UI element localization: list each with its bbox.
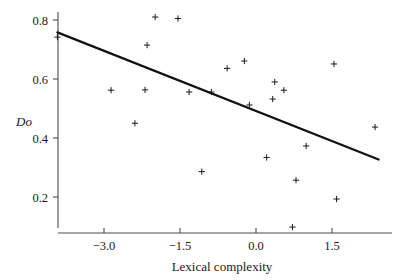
data-point-marker bbox=[333, 196, 339, 202]
x-axis-tick-labels: −3.0 −1.5 0.0 1.5 bbox=[93, 239, 340, 253]
x-tick-label--3.0: −3.0 bbox=[93, 239, 116, 253]
y-axis-title: Do bbox=[15, 114, 32, 129]
data-point-marker bbox=[270, 96, 276, 102]
x-tick-label-0.0: 0.0 bbox=[248, 239, 264, 253]
plot-canvas: 0.8 0.6 0.4 0.2 −3.0 −1.5 0.0 1.5 Lexica… bbox=[0, 0, 396, 280]
x-axis-title: Lexical complexity bbox=[172, 259, 273, 274]
data-point-marker bbox=[293, 177, 299, 183]
data-point-marker bbox=[186, 89, 192, 95]
data-point-marker bbox=[142, 87, 148, 93]
y-tick-label-0.6: 0.6 bbox=[32, 73, 48, 87]
data-point-marker bbox=[331, 61, 337, 67]
y-tick-label-0.2: 0.2 bbox=[32, 191, 48, 205]
y-tick-label-0.8: 0.8 bbox=[32, 14, 48, 28]
x-axis-ticks bbox=[104, 228, 332, 233]
data-point-marker bbox=[372, 124, 378, 130]
y-axis-tick-labels: 0.8 0.6 0.4 0.2 bbox=[32, 14, 48, 205]
y-axis-ticks bbox=[53, 20, 58, 197]
y-tick-label-0.4: 0.4 bbox=[32, 132, 48, 146]
data-point-marker bbox=[281, 87, 287, 93]
x-tick-label--1.5: −1.5 bbox=[169, 239, 192, 253]
data-point-marker bbox=[303, 143, 309, 149]
data-point-marker bbox=[272, 79, 278, 85]
data-point-marker bbox=[224, 65, 230, 71]
data-point-marker bbox=[54, 34, 60, 40]
data-points bbox=[54, 14, 378, 230]
data-point-marker bbox=[175, 15, 181, 21]
data-point-marker bbox=[199, 169, 205, 175]
data-point-marker bbox=[132, 120, 138, 126]
data-point-marker bbox=[108, 87, 114, 93]
scatter-plot-figure: 0.8 0.6 0.4 0.2 −3.0 −1.5 0.0 1.5 Lexica… bbox=[0, 0, 396, 280]
data-point-marker bbox=[289, 224, 295, 230]
regression-line-segment bbox=[57, 32, 378, 159]
x-tick-label-1.5: 1.5 bbox=[324, 239, 340, 253]
data-point-marker bbox=[264, 154, 270, 160]
data-point-marker bbox=[152, 14, 158, 20]
regression-line bbox=[57, 32, 378, 159]
data-point-marker bbox=[144, 42, 150, 48]
data-point-marker bbox=[241, 58, 247, 64]
